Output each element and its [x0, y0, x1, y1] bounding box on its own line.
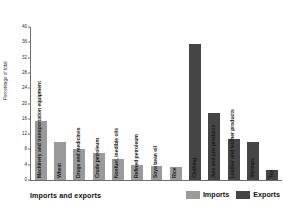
y-tick-mark: [28, 42, 30, 43]
y-tick-mark: [28, 57, 30, 58]
legend-swatch: [186, 191, 200, 199]
chart-legend: ImportsExports: [186, 190, 280, 199]
y-tick-mark: [28, 88, 30, 89]
bar-category-label: Crude petroleum: [95, 138, 100, 178]
bar-category-label: Leather and leather products: [230, 109, 235, 178]
bar-category-label: Shrimps: [250, 158, 255, 178]
legend-item: Imports: [186, 190, 229, 199]
y-tick-label: 12: [22, 132, 27, 137]
bar-slot: Wheat: [50, 27, 69, 180]
y-tick-label: 16: [22, 117, 27, 122]
y-tick-label: 28: [22, 71, 27, 76]
bar-chart: Percentage of total 0481216202428323640 …: [0, 0, 284, 210]
bar-category-label: Rice: [172, 167, 177, 178]
legend-swatch: [236, 191, 250, 199]
legend-label: Imports: [203, 190, 229, 199]
y-tick-mark: [28, 164, 30, 165]
y-tick-label: 8: [24, 147, 27, 152]
y-tick-label: 40: [22, 25, 27, 30]
bar-category-label: Clothing: [192, 158, 197, 178]
y-tick-mark: [28, 134, 30, 135]
y-tick-label: 24: [22, 86, 27, 91]
bar-category-label: Wheat: [56, 163, 61, 178]
bar-slot: Tea: [263, 27, 282, 180]
y-tick-label: 36: [22, 40, 27, 45]
bar-category-label: Machinery and transportation equipment: [37, 81, 42, 178]
bar-slot: Soya bean oil: [147, 27, 166, 180]
bar-slot: Nonfuel, inedible oils: [108, 27, 127, 180]
y-tick-label: 32: [22, 55, 27, 60]
x-axis-line: [30, 180, 282, 181]
y-tick-mark: [28, 72, 30, 73]
y-tick-mark: [28, 149, 30, 150]
bar-slot: Rice: [166, 27, 185, 180]
bar-slot: Drugs and medicines: [70, 27, 89, 180]
y-tick-label: 4: [24, 162, 27, 167]
bar-slot: Leather and leather products: [224, 27, 243, 180]
y-tick-mark: [28, 27, 30, 28]
y-tick-mark: [28, 180, 30, 181]
y-tick-label: 20: [22, 101, 27, 106]
y-tick-label: 0: [24, 178, 27, 183]
bar-slot: Jute and jute products: [205, 27, 224, 180]
bar-category-label: Refined petroleum: [134, 134, 139, 178]
legend-item: Exports: [236, 190, 280, 199]
bar-category-label: Soya bean oil: [153, 146, 158, 178]
legend-label: Exports: [253, 190, 280, 199]
bar-category-label: Tea: [269, 170, 274, 178]
y-tick-mark: [28, 118, 30, 119]
bar-category-label: Jute and jute products: [211, 124, 216, 178]
y-axis-title: Percentage of total: [4, 61, 9, 100]
bar-slot: Machinery and transportation equipment: [31, 27, 50, 180]
bar-slot: Shrimps: [243, 27, 262, 180]
bar-slot: Refined petroleum: [128, 27, 147, 180]
y-tick-mark: [28, 103, 30, 104]
chart-title: Imports and exports: [30, 191, 101, 200]
bar-series-container: Machinery and transportation equipmentWh…: [31, 27, 282, 180]
bar-slot: Clothing: [185, 27, 204, 180]
bar-category-label: Drugs and medicines: [76, 127, 81, 178]
bar-slot: Crude petroleum: [89, 27, 108, 180]
bar-category-label: Nonfuel, inedible oils: [114, 128, 119, 178]
chart-footer: Imports and exports ImportsExports: [0, 186, 284, 210]
